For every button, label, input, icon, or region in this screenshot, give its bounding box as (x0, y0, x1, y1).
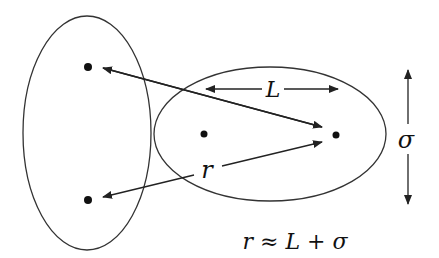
dot-left-bottom (84, 196, 92, 204)
length-label: L (265, 77, 281, 102)
width-label: σ (398, 126, 415, 154)
formula: r ≈ L + σ (243, 229, 349, 254)
diagram-canvas: L σ r r ≈ L + σ (0, 0, 439, 258)
dot-left-top (84, 63, 92, 71)
distance-arrow-lower-left (103, 175, 194, 197)
distance-arrow-lower-right (222, 142, 322, 166)
left-ellipse (23, 16, 151, 250)
dot-right-center (201, 131, 208, 138)
distance-label: r (201, 156, 214, 184)
distance-arrow-upper-head (103, 68, 322, 127)
dot-right-end (333, 132, 340, 139)
